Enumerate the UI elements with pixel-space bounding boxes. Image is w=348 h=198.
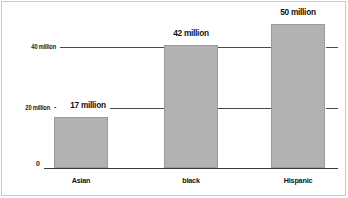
ytick-label-20-million: 20 million [10, 104, 50, 111]
bar-chart: 40 million 20 million - 0 17 million 42 … [0, 0, 348, 198]
ytick-label-0: 0 [28, 160, 40, 167]
gridline-20-million-stub [326, 108, 338, 109]
gridline-40-million-stub [326, 47, 338, 48]
bar-black [164, 45, 218, 168]
axis-baseline [44, 168, 338, 169]
value-label-asian: 17 million [61, 100, 114, 110]
bar-hispanic [271, 24, 325, 168]
ytick-label-40-million: 40 million [10, 43, 56, 50]
plot-area: 40 million 20 million - 0 17 million 42 … [0, 0, 348, 198]
value-label-black: 42 million [164, 28, 217, 38]
category-label-black: black [165, 176, 217, 185]
value-label-hispanic: 50 million [271, 7, 324, 17]
category-label-asian: Asian [55, 176, 107, 185]
bar-asian [54, 117, 108, 168]
category-label-hispanic: Hispanic [272, 176, 324, 185]
ytick-dash-20-million: - [54, 103, 56, 110]
